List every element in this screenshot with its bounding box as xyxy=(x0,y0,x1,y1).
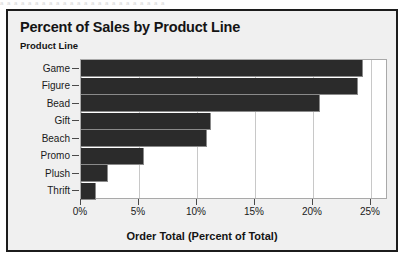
x-tick-label-0: 0% xyxy=(73,206,87,217)
y-tick-label-gift: Gift xyxy=(54,115,70,126)
x-tick-mark xyxy=(80,199,81,205)
bars-layer xyxy=(81,60,386,198)
y-tick-label-bead: Bead xyxy=(47,97,70,108)
chart-window: Percent of Sales by Product Line Product… xyxy=(6,9,398,252)
x-axis-title: Order Total (Percent of Total) xyxy=(8,230,396,242)
bar-game[interactable] xyxy=(81,60,363,77)
bar-fill xyxy=(81,60,363,77)
y-tick-label-plush: Plush xyxy=(45,167,70,178)
bar-fill xyxy=(81,148,144,165)
x-tick-label-10: 10% xyxy=(186,206,206,217)
y-axis: GameFigureBeadGiftBeachPromoPlushThrift xyxy=(8,59,80,199)
bar-fill xyxy=(81,78,358,95)
y-tick-mark xyxy=(72,173,79,174)
bar-fill xyxy=(81,183,96,200)
x-tick-label-25: 25% xyxy=(360,206,380,217)
y-tick-label-game: Game xyxy=(43,62,70,73)
y-tick-mark xyxy=(72,155,79,156)
bar-fill xyxy=(81,165,108,182)
x-tick-label-5: 5% xyxy=(131,206,145,217)
y-tick-label-thrift: Thrift xyxy=(47,185,70,196)
y-tick-label-promo: Promo xyxy=(41,150,70,161)
x-tick-label-20: 20% xyxy=(302,206,322,217)
x-tick-label-15: 15% xyxy=(244,206,264,217)
bar-plush[interactable] xyxy=(81,165,108,182)
bar-thrift[interactable] xyxy=(81,183,96,200)
y-tick-mark xyxy=(72,68,79,69)
plot-area xyxy=(80,59,387,199)
x-tick-mark xyxy=(254,199,255,205)
x-tick-mark xyxy=(312,199,313,205)
x-axis: 0%5%10%15%20%25% xyxy=(80,199,387,229)
chart-title: Percent of Sales by Product Line xyxy=(20,19,240,35)
bar-fill xyxy=(81,113,211,130)
bar-bead[interactable] xyxy=(81,95,320,112)
y-tick-mark xyxy=(72,138,79,139)
y-tick-mark xyxy=(72,120,79,121)
bar-gift[interactable] xyxy=(81,113,211,130)
top-text-fragment: a a a a a a a a a a a a a a a a a a a a … xyxy=(0,0,405,7)
y-tick-label-beach: Beach xyxy=(42,132,70,143)
bar-figure[interactable] xyxy=(81,78,358,95)
y-tick-mark xyxy=(72,103,79,104)
x-tick-mark xyxy=(370,199,371,205)
bar-fill xyxy=(81,130,207,147)
y-tick-mark xyxy=(72,85,79,86)
bar-promo[interactable] xyxy=(81,148,144,165)
y-tick-mark xyxy=(72,190,79,191)
bar-beach[interactable] xyxy=(81,130,207,147)
y-axis-group-label: Product Line xyxy=(20,40,78,51)
x-tick-mark xyxy=(138,199,139,205)
x-tick-mark xyxy=(196,199,197,205)
bar-fill xyxy=(81,95,320,112)
y-tick-label-figure: Figure xyxy=(42,80,70,91)
